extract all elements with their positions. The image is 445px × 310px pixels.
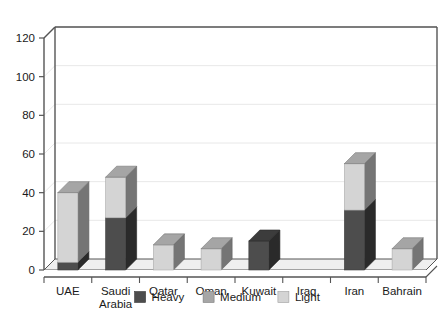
bar-segment[interactable] — [201, 249, 221, 270]
y-tick-label: 40 — [22, 187, 35, 199]
bar-segment[interactable] — [58, 262, 78, 270]
bar-column[interactable] — [344, 153, 375, 270]
y-tick-label: 20 — [22, 225, 35, 237]
floor-front-band — [44, 270, 426, 277]
bar-segment[interactable] — [344, 210, 364, 270]
bar-segment[interactable] — [392, 249, 412, 270]
legend-label: Light — [295, 291, 321, 303]
y-tick-label: 120 — [16, 32, 35, 44]
bar-segment-side-face — [78, 182, 89, 263]
legend-swatch[interactable] — [135, 292, 146, 303]
chart-container: 020406080100120 UAESaudiArabiaQatarOmanK… — [0, 0, 445, 310]
bar-segment-side-face — [364, 199, 375, 270]
bar-column[interactable] — [58, 182, 89, 270]
y-tick-label: 0 — [29, 264, 35, 276]
bar-segment[interactable] — [153, 245, 173, 270]
bar-segment[interactable] — [58, 193, 78, 263]
x-axis-category-label: Iran — [344, 285, 364, 297]
y-tick-label: 100 — [16, 71, 35, 83]
chart-floor — [44, 259, 437, 277]
floor-face — [44, 259, 437, 270]
bar-segment[interactable] — [106, 218, 126, 270]
bar-column[interactable] — [249, 230, 280, 270]
y-tick-label: 60 — [22, 148, 35, 160]
bar-segment[interactable] — [106, 177, 126, 218]
x-axis-category-label: SaudiArabia — [99, 285, 133, 310]
plot-background — [33, 26, 437, 270]
x-axis-category-label: Bahrain — [382, 285, 422, 297]
legend-swatch[interactable] — [278, 292, 289, 303]
bar-segment[interactable] — [344, 164, 364, 210]
legend-label: Heavy — [152, 291, 185, 303]
chart-legend: HeavyMediumLight — [135, 291, 321, 303]
bar-column[interactable] — [106, 166, 137, 270]
stacked-bar-chart: 020406080100120 UAESaudiArabiaQatarOmanK… — [0, 0, 445, 310]
bar-segment[interactable] — [249, 241, 269, 270]
x-axis-category-label: UAE — [56, 285, 80, 297]
legend-label: Medium — [220, 291, 261, 303]
legend-swatch[interactable] — [203, 292, 214, 303]
y-tick-label: 80 — [22, 109, 35, 121]
